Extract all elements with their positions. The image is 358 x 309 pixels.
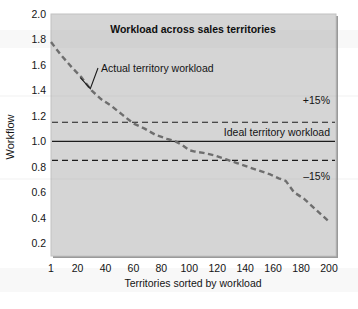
lower-tolerance-label: –15% bbox=[303, 170, 330, 182]
y-tick-label: 1.4 bbox=[31, 84, 46, 96]
x-tick-label: 160 bbox=[264, 262, 282, 274]
x-tick-label: 1 bbox=[48, 262, 54, 274]
y-tick-label: 1.0 bbox=[31, 135, 46, 147]
y-tick-label: 1.6 bbox=[31, 59, 46, 71]
y-tick-label: 1.8 bbox=[31, 33, 46, 45]
y-tick-label: 0.4 bbox=[31, 212, 46, 224]
x-tick-label: 20 bbox=[72, 262, 84, 274]
y-tick-label: 0.6 bbox=[31, 186, 46, 198]
x-tick-label: 180 bbox=[292, 262, 310, 274]
chart-figure: 0.20.40.60.81.01.21.41.61.82.0 120406080… bbox=[0, 0, 358, 309]
y-axis-tick-labels: 0.20.40.60.81.01.21.41.61.82.0 bbox=[31, 8, 46, 249]
x-tick-label: 40 bbox=[100, 262, 112, 274]
upper-tolerance-label: +15% bbox=[303, 94, 330, 106]
ideal-workload-label: Ideal territory workload bbox=[224, 126, 330, 138]
series-callout-label: Actual territory workload bbox=[101, 62, 214, 74]
x-tick-label: 60 bbox=[128, 262, 140, 274]
y-tick-label: 1.2 bbox=[31, 110, 46, 122]
chart-canvas: 0.20.40.60.81.01.21.41.61.82.0 120406080… bbox=[0, 0, 358, 309]
y-tick-label: 2.0 bbox=[31, 8, 46, 20]
y-tick-label: 0.2 bbox=[31, 237, 46, 249]
y-axis-title: Workflow bbox=[4, 114, 16, 159]
x-tick-label: 200 bbox=[320, 262, 338, 274]
x-tick-label: 140 bbox=[236, 262, 254, 274]
x-tick-label: 80 bbox=[156, 262, 168, 274]
y-tick-label: 0.8 bbox=[31, 161, 46, 173]
x-tick-label: 120 bbox=[208, 262, 226, 274]
x-tick-label: 100 bbox=[181, 262, 199, 274]
x-axis-title: Territories sorted by workload bbox=[124, 277, 261, 289]
chart-title: Workload across sales territories bbox=[110, 23, 276, 35]
